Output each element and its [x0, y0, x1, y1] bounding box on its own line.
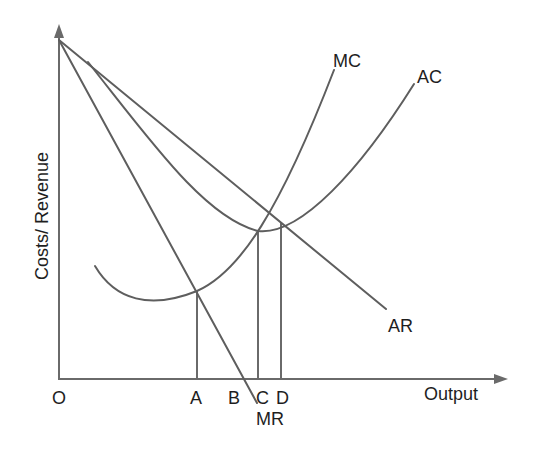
x-axis-arrow-icon — [494, 374, 508, 384]
y-axis-title: Costs/ Revenue — [32, 152, 52, 280]
drop-lines — [197, 223, 281, 379]
ar-label: AR — [388, 316, 413, 336]
y-axis-arrow-icon — [54, 24, 64, 38]
mr-curve — [59, 40, 257, 403]
mc-curve — [95, 70, 334, 301]
mr-label: MR — [256, 409, 284, 429]
point-d-label: D — [276, 388, 289, 408]
point-a-label: A — [190, 388, 202, 408]
point-c-label: C — [256, 388, 269, 408]
ac-label: AC — [417, 67, 442, 87]
point-b-label: B — [228, 388, 240, 408]
ar-curve — [59, 40, 386, 309]
x-axis-title: Output — [424, 384, 478, 404]
mc-label: MC — [333, 51, 361, 71]
ac-curve — [88, 62, 414, 231]
origin-label: O — [52, 388, 66, 408]
cost-revenue-diagram: MC AC AR MR O A B C D Output Costs/ Reve… — [0, 0, 535, 450]
